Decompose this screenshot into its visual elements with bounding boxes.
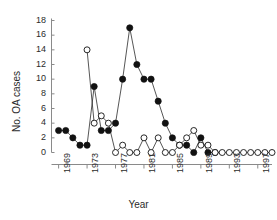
data-point-open bbox=[219, 150, 225, 156]
data-point-filled bbox=[84, 142, 90, 148]
data-point-filled bbox=[184, 142, 190, 148]
x-tick-label: 1969 bbox=[63, 152, 72, 172]
x-tick-label: 1981 bbox=[148, 152, 157, 172]
data-point-open bbox=[91, 120, 97, 126]
data-point-open bbox=[113, 150, 119, 156]
data-point-open bbox=[205, 142, 211, 148]
data-point-open bbox=[134, 150, 140, 156]
x-tick-label: 1997 bbox=[262, 152, 271, 172]
data-point-filled bbox=[198, 135, 204, 141]
data-point-filled bbox=[91, 83, 97, 89]
data-point-open bbox=[184, 135, 190, 141]
data-point-open bbox=[120, 142, 126, 148]
data-point-open bbox=[141, 135, 147, 141]
data-point-open bbox=[105, 120, 111, 126]
data-point-filled bbox=[141, 76, 147, 82]
y-axis-label: No. OA cases bbox=[11, 62, 22, 142]
data-point-open bbox=[84, 47, 90, 53]
data-point-filled bbox=[105, 127, 111, 133]
data-point-filled bbox=[63, 127, 69, 133]
data-point-filled bbox=[112, 120, 118, 126]
x-axis-ticks bbox=[59, 165, 258, 169]
y-tick-label: 12 bbox=[24, 60, 46, 69]
data-point-open bbox=[98, 113, 104, 119]
series-connector-lines bbox=[59, 28, 272, 153]
data-point-filled bbox=[70, 135, 76, 141]
data-point-filled bbox=[56, 127, 62, 133]
y-tick-label: 6 bbox=[24, 104, 46, 113]
x-tick-label: 1973 bbox=[91, 152, 100, 172]
x-tick-label: 1989 bbox=[205, 152, 214, 172]
data-point-filled bbox=[169, 135, 175, 141]
y-tick-label: 4 bbox=[24, 118, 46, 127]
data-point-filled bbox=[77, 142, 83, 148]
y-tick-label: 8 bbox=[24, 89, 46, 98]
data-point-open bbox=[255, 150, 261, 156]
x-tick-label: 1985 bbox=[176, 152, 185, 172]
data-point-filled bbox=[162, 120, 168, 126]
data-point-filled bbox=[127, 25, 133, 31]
y-tick-label: 18 bbox=[24, 16, 46, 25]
data-point-open bbox=[248, 150, 254, 156]
chart-figure: No. OA cases Year 024681012141618 196919… bbox=[0, 0, 277, 220]
data-point-filled bbox=[120, 76, 126, 82]
data-point-filled bbox=[134, 61, 140, 67]
x-tick-label: 1977 bbox=[120, 152, 129, 172]
y-tick-label: 10 bbox=[24, 74, 46, 83]
y-tick-label: 2 bbox=[24, 133, 46, 142]
y-tick-label: 14 bbox=[24, 45, 46, 54]
data-point-filled bbox=[155, 98, 161, 104]
y-tick-label: 0 bbox=[24, 148, 46, 157]
data-point-open bbox=[177, 142, 183, 148]
x-tick-label: 1993 bbox=[233, 152, 242, 172]
data-point-filled bbox=[98, 127, 104, 133]
data-point-open bbox=[198, 142, 204, 148]
data-point-open bbox=[155, 135, 161, 141]
data-point-filled bbox=[148, 76, 154, 82]
data-point-open bbox=[162, 150, 168, 156]
data-point-filled bbox=[191, 149, 197, 155]
y-tick-label: 16 bbox=[24, 30, 46, 39]
x-axis-label: Year bbox=[0, 199, 277, 210]
data-point-open bbox=[191, 128, 197, 134]
